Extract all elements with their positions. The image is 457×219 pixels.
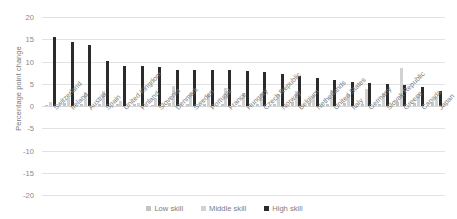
bar-low-skill <box>308 103 311 106</box>
bar-group <box>375 17 393 195</box>
bar-low-skill <box>256 104 259 106</box>
bar-high-skill <box>176 70 179 106</box>
bar-series-group <box>42 17 445 195</box>
bar-group <box>270 17 288 195</box>
legend-item-high-skill[interactable]: High skill <box>264 204 302 213</box>
bar-low-skill <box>151 105 154 106</box>
bar-high-skill <box>158 67 161 106</box>
bar-low-skill <box>116 104 119 106</box>
bar-middle-skill <box>102 91 105 106</box>
bar-low-skill <box>80 104 83 106</box>
bar-middle-skill <box>154 98 157 106</box>
bar-high-skill <box>88 45 91 106</box>
bar-group <box>340 17 358 195</box>
bar-high-skill <box>141 66 144 106</box>
bar-high-skill <box>263 72 266 106</box>
legend-item-low-skill[interactable]: Low skill <box>146 204 183 213</box>
bar-middle-skill <box>189 93 192 106</box>
bar-group <box>95 17 113 195</box>
bar-group <box>77 17 95 195</box>
bar-low-skill <box>378 104 381 106</box>
bar-low-skill <box>238 105 241 106</box>
legend-label: High skill <box>272 204 302 213</box>
bar-high-skill <box>351 82 354 106</box>
bar-middle-skill <box>49 102 52 106</box>
bar-middle-skill <box>172 86 175 106</box>
bar-low-skill <box>168 103 171 106</box>
legend-swatch-icon <box>146 206 151 211</box>
y-tick-label: 20 <box>26 13 34 22</box>
bar-low-skill <box>326 104 329 106</box>
bar-high-skill <box>193 70 196 106</box>
bar-group <box>147 17 165 195</box>
bar-low-skill <box>361 104 364 106</box>
bar-low-skill <box>63 103 66 106</box>
bar-low-skill <box>133 104 136 106</box>
bar-middle-skill <box>382 93 385 106</box>
chart-legend: Low skillMiddle skillHigh skill <box>0 204 449 213</box>
bar-low-skill <box>186 104 189 106</box>
bar-middle-skill <box>67 98 70 106</box>
bar-middle-skill <box>277 94 280 106</box>
legend-label: Low skill <box>154 204 183 213</box>
bar-high-skill <box>71 42 74 106</box>
bar-low-skill <box>291 102 294 106</box>
bar-middle-skill <box>347 94 350 106</box>
bar-low-skill <box>273 104 276 106</box>
bar-group <box>427 17 445 195</box>
bar-high-skill <box>403 85 406 106</box>
bar-low-skill <box>343 103 346 106</box>
y-tick-label: -20 <box>23 191 34 200</box>
bar-middle-skill <box>365 89 368 106</box>
bar-middle-skill <box>260 93 263 106</box>
bar-middle-skill <box>400 68 403 106</box>
bar-high-skill <box>123 66 126 106</box>
bar-group <box>182 17 200 195</box>
y-tick-label: -5 <box>27 124 34 133</box>
legend-swatch-icon <box>201 206 206 211</box>
gridline--20 <box>42 195 445 196</box>
bar-group <box>322 17 340 195</box>
y-tick-label: 10 <box>26 57 34 66</box>
bar-middle-skill <box>207 94 210 106</box>
bar-group <box>252 17 270 195</box>
bar-high-skill <box>386 84 389 106</box>
bar-high-skill <box>53 37 56 106</box>
bar-middle-skill <box>417 94 420 106</box>
bar-high-skill <box>228 70 231 106</box>
bar-high-skill <box>439 91 442 106</box>
bar-group <box>357 17 375 195</box>
bar-high-skill <box>333 80 336 106</box>
legend-label: Middle skill <box>209 204 246 213</box>
y-tick-label: -10 <box>23 146 34 155</box>
bar-middle-skill <box>435 97 438 106</box>
bar-low-skill <box>413 103 416 106</box>
y-tick-label: 0 <box>30 102 34 111</box>
bar-low-skill <box>98 104 101 106</box>
bar-high-skill <box>421 87 424 106</box>
bar-high-skill <box>106 61 109 106</box>
bar-group <box>200 17 218 195</box>
plot-area <box>42 17 445 195</box>
bar-group <box>112 17 130 195</box>
bar-group <box>287 17 305 195</box>
bar-group <box>217 17 235 195</box>
bar-middle-skill <box>224 88 227 106</box>
legend-item-middle-skill[interactable]: Middle skill <box>201 204 246 213</box>
bar-group <box>130 17 148 195</box>
bar-low-skill <box>203 104 206 106</box>
bar-low-skill <box>45 105 48 106</box>
bar-group <box>410 17 428 195</box>
bar-middle-skill <box>295 91 298 106</box>
bar-high-skill <box>246 71 249 106</box>
bar-low-skill <box>221 104 224 106</box>
bar-high-skill <box>316 78 319 106</box>
y-tick-label: -15 <box>23 168 34 177</box>
bar-high-skill <box>211 70 214 106</box>
bar-group <box>165 17 183 195</box>
bar-middle-skill <box>242 93 245 106</box>
y-tick-label: 15 <box>26 35 34 44</box>
bar-middle-skill <box>137 103 140 106</box>
bar-high-skill <box>298 76 301 106</box>
